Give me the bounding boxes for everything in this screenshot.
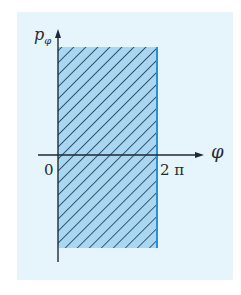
hatched-region [58, 47, 157, 248]
horizontal-axis-label: φ [211, 143, 224, 161]
vertical-axis-label-subscript: φ [44, 35, 51, 46]
arrow-up-icon [55, 29, 61, 38]
vertical-axis-label: pφ [34, 27, 51, 46]
two-pi-tick-label: 2 π [160, 163, 184, 178]
arrow-right-icon [195, 152, 204, 158]
origin-tick-label: 0 [44, 163, 54, 178]
vertical-axis-label-main: p [34, 25, 44, 44]
